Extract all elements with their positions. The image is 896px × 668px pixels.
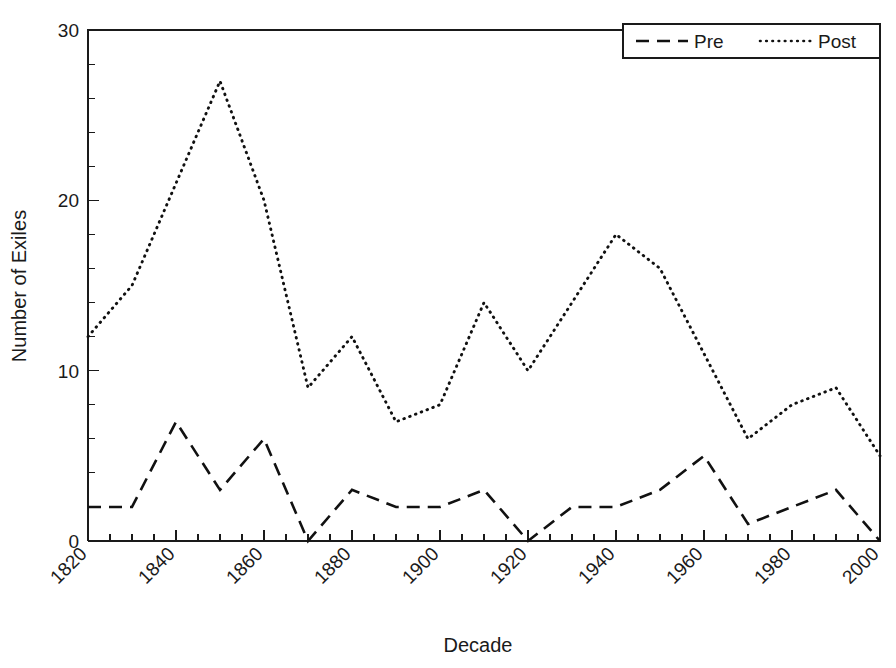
x-tick-label: 1980 [750,543,795,588]
y-tick-label: 10 [58,361,79,382]
x-axis-ticks: 1820184018601880190019201940196019802000 [46,530,883,588]
y-axis-title: Number of Exiles [8,210,30,362]
x-tick-label: 1860 [222,543,267,588]
x-tick-label: 1880 [310,543,355,588]
series-group [88,81,880,541]
series-line-pre [88,422,880,541]
legend-label-pre: Pre [694,31,724,52]
y-axis-ticks: 0102030 [58,20,99,552]
x-tick-label: 1840 [134,543,179,588]
x-tick-label: 1820 [46,543,91,588]
x-tick-label: 1920 [486,543,531,588]
chart-legend: Pre Post [623,24,880,58]
x-tick-label: 1900 [398,543,443,588]
y-tick-label: 30 [58,20,79,41]
series-line-post [88,81,880,456]
x-tick-label: 1960 [662,543,707,588]
x-tick-label: 2000 [838,543,883,588]
y-tick-label: 20 [58,190,79,211]
x-tick-label: 1940 [574,543,619,588]
legend-label-post: Post [818,31,857,52]
exiles-line-chart: 0102030 18201840186018801900192019401960… [0,0,896,668]
x-axis-title: Decade [444,634,513,656]
chart-container: 0102030 18201840186018801900192019401960… [0,0,896,668]
axis-frame [88,30,880,541]
plot-frame [88,30,880,541]
